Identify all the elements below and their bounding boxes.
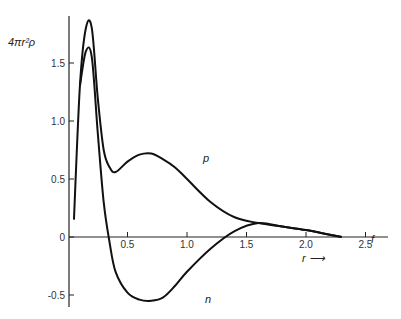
svg-text:2.0: 2.0 [299,239,313,250]
x-axis-label: r ⟶ [302,252,326,264]
y-axis-label: 4πr²ρ [8,36,35,48]
series-label-p: p [202,152,209,164]
svg-text:1.0: 1.0 [51,116,65,127]
svg-text:0.5: 0.5 [51,174,65,185]
svg-text:1.5: 1.5 [240,239,254,250]
curve-p [74,20,342,237]
svg-text:1.0: 1.0 [180,239,194,250]
axes [69,16,388,307]
chart: 0.51.01.52.02.5-0.500.51.01.5 4πr²ρ r ⟶ … [0,0,401,319]
svg-text:-0.5: -0.5 [48,290,66,301]
series-label-n: n [205,293,211,305]
svg-text:0: 0 [59,232,65,243]
svg-text:0.5: 0.5 [121,239,135,250]
x-unit-label: f [371,233,375,245]
svg-text:1.5: 1.5 [51,58,65,69]
